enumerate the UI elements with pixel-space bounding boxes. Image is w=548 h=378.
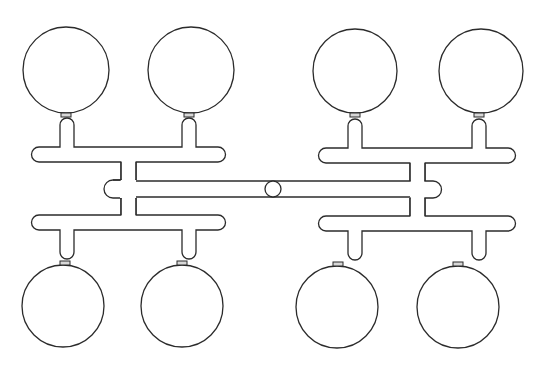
part-gate [60, 261, 70, 265]
sprue-diagram [0, 0, 548, 378]
part-circle [296, 266, 378, 348]
center-gate-circle [265, 181, 281, 197]
part-circle [22, 265, 104, 347]
part-gate [333, 262, 343, 266]
part-gate [184, 113, 194, 117]
part-gate [177, 261, 187, 265]
part-circle [23, 27, 109, 113]
part-gate [61, 113, 71, 117]
part-circle [439, 29, 523, 113]
part-gate [350, 113, 360, 117]
part-gate [474, 113, 484, 117]
runner-right-nub [425, 181, 442, 198]
part-circle [148, 27, 234, 113]
runner-left-nub [104, 180, 121, 198]
center-connector [113, 161, 425, 217]
part-circle [313, 29, 397, 113]
part-gate [453, 262, 463, 266]
part-circle [141, 265, 223, 347]
part-circle [417, 266, 499, 348]
